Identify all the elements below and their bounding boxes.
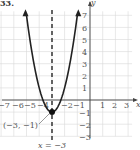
problem-label: 33. xyxy=(0,0,14,8)
y-tick: 1 xyxy=(82,84,87,93)
y-tick: 7 xyxy=(82,11,87,20)
axis-of-symmetry-label: x = −3 xyxy=(38,141,66,150)
x-axis-label: x xyxy=(136,100,140,109)
y-tick: 6 xyxy=(82,24,87,33)
y-tick: 4 xyxy=(82,48,87,57)
x-tick-labels: −7 −6 −5 −4 −2 −1 1 2 3 xyxy=(0,101,129,110)
y-tick: −3 xyxy=(79,133,91,142)
x-tick: −2 xyxy=(61,101,73,110)
y-tick: 3 xyxy=(82,60,87,69)
curve-arrow-left-icon xyxy=(23,9,29,16)
y-tick: −1 xyxy=(79,109,91,118)
y-axis-label: y xyxy=(90,0,96,7)
x-tick: 1 xyxy=(100,101,105,110)
x-tick: 2 xyxy=(112,101,117,110)
y-tick: −2 xyxy=(79,121,91,130)
parabola-chart: 33. x y −7 −6 −5 −4 −2 −1 1 2 3 7 6 5 4 … xyxy=(0,0,140,150)
y-tick-labels: 7 6 5 4 3 2 1 −1 −2 −3 xyxy=(79,11,91,142)
vertex-leader-line xyxy=(39,114,49,124)
grid xyxy=(0,11,132,136)
x-tick: −5 xyxy=(24,101,36,110)
vertex-point xyxy=(49,109,55,115)
curve-arrow-right-icon xyxy=(75,9,81,16)
x-tick: −7 xyxy=(0,101,10,110)
y-tick: 2 xyxy=(82,72,87,81)
vertex-label: (−3, −1) xyxy=(3,121,38,130)
x-tick: 3 xyxy=(124,101,129,110)
y-tick: 5 xyxy=(82,36,87,45)
x-tick: −6 xyxy=(12,101,24,110)
